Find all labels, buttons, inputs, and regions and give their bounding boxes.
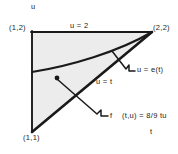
vertex-label-top-left: (1,2) bbox=[9, 24, 26, 32]
axis-label-t: t bbox=[150, 128, 152, 136]
vertex-label-top-right: (2,2) bbox=[153, 24, 170, 32]
edge-label-top: u = 2 bbox=[70, 22, 88, 30]
axis-label-u: u bbox=[31, 3, 35, 11]
math-diagram-figure: u t (1,2) (2,2) (1,1) u = 2 u = t u = e(… bbox=[0, 0, 178, 154]
point-label-f: f bbox=[110, 112, 112, 120]
edge-label-diagonal: u = t bbox=[96, 78, 112, 86]
formula-label: (t,u) = 8/9 tu bbox=[122, 112, 167, 120]
curve-label: u = e(t) bbox=[137, 66, 163, 74]
vertex-label-bottom-left: (1,1) bbox=[23, 134, 40, 142]
